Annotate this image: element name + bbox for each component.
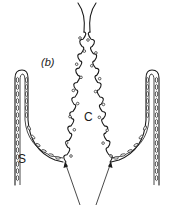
sheath-cell [16, 175, 18, 180]
sheath-cell [16, 126, 18, 131]
sheath-cell [155, 140, 157, 145]
wall-curl [72, 89, 75, 92]
sheath-cell [155, 112, 157, 117]
sheath-cell [16, 168, 18, 173]
sheath-cell [27, 125, 31, 130]
wall-curl [95, 52, 98, 55]
sheath-cell [31, 135, 36, 140]
sheath-cell [155, 119, 157, 124]
sheath-cell [155, 133, 157, 138]
sheath-cell [155, 161, 157, 166]
sheath-cell [16, 98, 18, 103]
sheath-cell [16, 77, 18, 82]
wall-curl [102, 103, 105, 106]
sheath-cell [155, 126, 157, 131]
left-sheath [15, 70, 63, 185]
wall-curl [69, 115, 72, 118]
sheath-cell [155, 105, 157, 110]
sheath-cell [155, 154, 157, 159]
sheath-cell [146, 92, 148, 97]
sheath-cell [16, 105, 18, 110]
sheath-cell [155, 91, 157, 96]
sheath-cell [155, 84, 157, 89]
wall-curl [90, 64, 93, 67]
sheath-cell [16, 119, 18, 124]
label-s: S [18, 152, 26, 166]
right-sheath [111, 70, 159, 185]
sheath-cell [143, 125, 147, 130]
label-c: C [84, 110, 93, 124]
wall-curl [106, 129, 109, 132]
sheath-cell [25, 99, 27, 104]
left-arrow [64, 161, 81, 205]
wall-curl [73, 128, 76, 131]
diagram: (b) C S [0, 0, 174, 206]
wall-curl [70, 155, 73, 158]
wall-curl [65, 142, 68, 145]
sheath-cell [25, 92, 27, 97]
sheath-cell [155, 77, 157, 82]
sheath-cell [56, 157, 61, 160]
right-arrow [96, 161, 113, 205]
panel-label: (b) [41, 56, 55, 68]
sheath-cell [114, 157, 119, 160]
sheath-cell [16, 84, 18, 89]
wall-curl [87, 39, 90, 42]
wall-curl [94, 90, 97, 93]
wall-curl [98, 116, 101, 119]
wall-curl [75, 63, 78, 66]
sheath-cell [146, 113, 148, 118]
sheath-cell [48, 153, 53, 156]
left-central-wall [64, 3, 86, 162]
sheath-cell [146, 106, 148, 111]
sheath-cell [146, 85, 148, 90]
sheath-cell [16, 140, 18, 145]
sheath-cell [155, 175, 157, 180]
sheath-cell [16, 112, 18, 117]
sheath-cell [146, 99, 148, 104]
sheath-cell [155, 98, 157, 103]
sheath-cell [16, 91, 18, 96]
wall-curl [98, 77, 101, 80]
wall-curl [80, 76, 83, 79]
sheath-cell [25, 85, 27, 90]
sheath-cell [146, 78, 148, 83]
sheath-cell [155, 168, 157, 173]
sheath-cell [16, 133, 18, 138]
wall-curl [83, 50, 86, 53]
right-central-wall [87, 3, 113, 162]
wall-curl [76, 102, 79, 105]
sheath-cell [25, 78, 27, 83]
wall-curl [79, 37, 82, 40]
right-sheath-cells [114, 77, 158, 180]
sheath-cell [25, 106, 27, 111]
wall-curl [110, 155, 113, 158]
sheath-cell [25, 113, 27, 118]
sheath-cell [139, 135, 144, 140]
sheath-cell [120, 153, 125, 156]
wall-curl [102, 142, 105, 145]
sheath-cell [155, 147, 157, 152]
